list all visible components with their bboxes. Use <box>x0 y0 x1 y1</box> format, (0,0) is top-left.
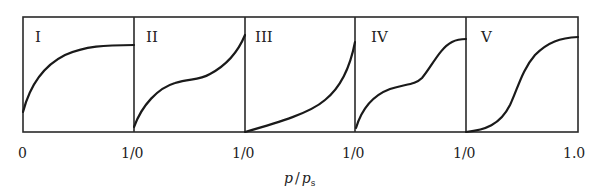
x-tick-5: 1.0 <box>563 145 585 161</box>
x-axis-label: p/ps <box>284 170 316 188</box>
isotherm-curve-I <box>23 45 134 112</box>
isotherm-curve-V <box>466 37 578 132</box>
x-tick-1: 1/0 <box>121 145 144 161</box>
svg-text:p/ps: p/ps <box>284 170 316 188</box>
panel-label-III: III <box>255 28 273 46</box>
isotherm-curve-II <box>134 35 245 127</box>
isotherm-curve-IV <box>356 39 466 128</box>
x-axis-label-slash: / <box>295 170 300 186</box>
x-tick-4: 1/0 <box>453 145 476 161</box>
x-axis-label-subscript: s <box>311 178 316 188</box>
x-tick-3: 1/0 <box>342 145 365 161</box>
panel-label-II: II <box>146 28 158 46</box>
panel-label-I: I <box>35 28 41 46</box>
isotherm-curve-III <box>245 42 355 132</box>
x-axis-label-numerator: p <box>284 170 293 186</box>
x-tick-0: 0 <box>18 145 27 161</box>
x-tick-2: 1/0 <box>232 145 255 161</box>
isotherm-diagram: I II III IV V 0 1/0 1/0 1/0 1/0 1.0 p/ps <box>0 0 596 190</box>
x-axis-label-denominator: p <box>302 170 311 186</box>
panel-label-IV: IV <box>371 28 389 46</box>
panel-label-V: V <box>480 28 493 46</box>
